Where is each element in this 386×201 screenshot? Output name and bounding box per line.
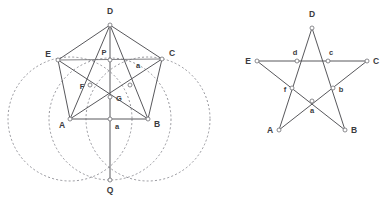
star-node-f: [290, 86, 294, 90]
vertex-node-A: [68, 117, 72, 121]
geometry-figure-root: D E C A B Q P F G a a: [0, 0, 386, 201]
edge-E-B: [58, 60, 148, 119]
label-B: B: [154, 119, 160, 129]
segment-label-a-ab: a: [115, 122, 120, 131]
right-diagram-nodes: [255, 26, 369, 132]
right-diagram: D E C A B d c f b a: [245, 9, 379, 135]
segment-label-a-ac: a: [136, 61, 141, 70]
star-label-D: D: [309, 9, 315, 19]
star-edge-B-D: [312, 28, 345, 130]
label-P: P: [101, 48, 106, 57]
geometry-canvas: D E C A B Q P F G a a: [0, 0, 386, 201]
star-node-B: [343, 128, 347, 132]
star-node-D: [310, 26, 314, 30]
label-A: A: [59, 120, 65, 130]
label-Q: Q: [107, 185, 114, 195]
edge-E-A: [58, 60, 70, 119]
star-node-d: [295, 59, 299, 63]
star-node-b: [331, 86, 335, 90]
vertex-node-C: [160, 57, 164, 61]
vertex-node-D: [108, 23, 112, 27]
star-edge-D-A: [279, 28, 312, 130]
vertex-node-M: [108, 117, 112, 121]
star-label-E: E: [245, 56, 251, 66]
label-C: C: [169, 48, 175, 58]
label-D: D: [107, 6, 113, 16]
vertex-node-E: [56, 58, 60, 62]
star-label-d: d: [293, 48, 298, 57]
label-G: G: [116, 94, 122, 103]
star-label-c: c: [329, 48, 333, 57]
star-label-B: B: [351, 125, 357, 135]
star-edge-A-C: [279, 61, 367, 130]
vertex-node-P: [108, 58, 112, 62]
star-label-a: a: [310, 106, 315, 115]
edge-C-B: [148, 59, 162, 119]
star-node-C: [365, 59, 369, 63]
star-node-A: [277, 128, 281, 132]
label-E: E: [45, 49, 51, 59]
star-node-E: [255, 59, 259, 63]
vertex-node-H: [128, 83, 132, 87]
label-F: F: [80, 82, 85, 91]
star-node-a: [310, 99, 314, 103]
vertex-node-Q: [108, 178, 112, 182]
star-node-c: [326, 59, 330, 63]
star-label-b: b: [339, 85, 344, 94]
vertex-node-G: [108, 95, 112, 99]
star-label-f: f: [284, 85, 287, 94]
left-diagram: D E C A B Q P F G a a: [8, 6, 210, 195]
vertex-node-B: [146, 117, 150, 121]
star-edge-E-B: [257, 61, 345, 130]
edge-D-C: [110, 25, 162, 59]
star-label-C: C: [373, 56, 379, 66]
star-label-A: A: [267, 125, 273, 135]
vertex-node-F: [88, 83, 92, 87]
